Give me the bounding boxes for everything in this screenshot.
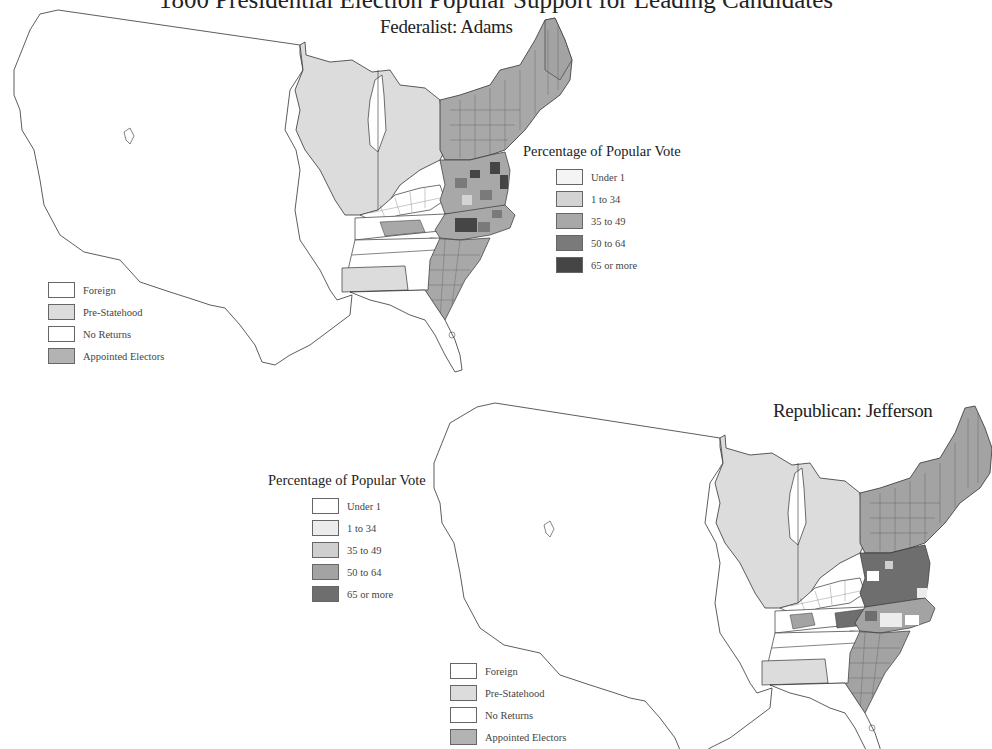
pre-statehood-south <box>762 659 828 685</box>
swatch <box>312 586 339 602</box>
legend-item-under-1: Under 1 <box>312 495 426 517</box>
northeast-region <box>860 406 992 553</box>
swatch <box>450 729 477 745</box>
swatch <box>312 498 339 514</box>
legend-item-65-or-more: 65 or more <box>312 583 426 605</box>
legend-item-35-to-49: 35 to 49 <box>312 539 426 561</box>
map-title-republican: Republican: Jefferson <box>773 400 933 422</box>
vote-legend-republican: Percentage of Popular Vote Under 1 1 to … <box>268 472 426 605</box>
legend-item-no-returns: No Returns <box>450 704 566 726</box>
swatch <box>450 707 477 723</box>
legend-item-50-to-64: 50 to 64 <box>312 561 426 583</box>
status-legend-republican: Foreign Pre-Statehood No Returns Appoint… <box>450 660 566 748</box>
swatch <box>312 564 339 580</box>
swatch <box>450 685 477 701</box>
legend-item-appointed-electors: Appointed Electors <box>450 726 566 748</box>
swatch <box>312 542 339 558</box>
map-republican-jefferson <box>0 0 992 749</box>
legend-item-pre-statehood: Pre-Statehood <box>450 682 566 704</box>
legend-item-foreign: Foreign <box>450 660 566 682</box>
legend-title: Percentage of Popular Vote <box>268 472 426 489</box>
swatch <box>312 520 339 536</box>
legend-item-1-to-34: 1 to 34 <box>312 517 426 539</box>
swatch <box>450 663 477 679</box>
